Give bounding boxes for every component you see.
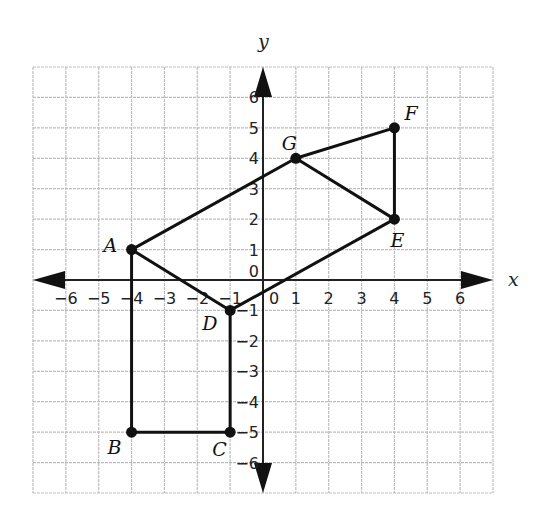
segment-GF [296, 128, 395, 158]
point-label-E: E [389, 229, 404, 251]
x-axis-left-arrow-icon [33, 271, 65, 289]
x-tick-label: 0 [269, 289, 279, 308]
segment-AG [132, 158, 296, 249]
x-axis-label: x [508, 268, 519, 290]
y-tick-label: −4 [235, 393, 259, 412]
point-C [225, 427, 236, 438]
point-E [389, 214, 400, 225]
y-tick-label: 1 [249, 241, 259, 260]
point-label-D: D [201, 312, 217, 334]
x-tick-label: 3 [356, 289, 366, 308]
point-label-A: A [102, 234, 118, 256]
point-G [290, 153, 301, 164]
point-B [126, 427, 137, 438]
point-label-F: F [403, 102, 418, 124]
y-tick-label: −6 [235, 454, 259, 473]
y-axis-label: y [257, 30, 269, 52]
x-tick-label: −5 [87, 289, 111, 308]
point-label-B: B [107, 436, 122, 458]
axes [33, 67, 493, 493]
x-tick-label: 2 [324, 289, 334, 308]
y-tick-label: 0 [249, 262, 259, 281]
y-tick-label: −5 [235, 423, 259, 442]
x-tick-label: 4 [389, 289, 399, 308]
x-tick-label: 5 [422, 289, 432, 308]
x-tick-label: −6 [54, 289, 78, 308]
y-tick-label: 6 [249, 88, 259, 107]
y-tick-label: 4 [249, 149, 259, 168]
point-label-C: C [212, 438, 227, 460]
y-tick-label: 2 [249, 210, 259, 229]
point-D [225, 305, 236, 316]
point-A [126, 244, 137, 255]
x-tick-label: 6 [455, 289, 465, 308]
x-tick-label: −3 [153, 289, 177, 308]
y-tick-label: 5 [249, 119, 259, 138]
y-tick-label: −3 [235, 362, 259, 381]
x-axis-right-arrow-icon [461, 271, 493, 289]
coordinate-plane: −6−5−4−3−2−1123456−6−5−4−3−2−101234560 A… [0, 0, 541, 513]
point-F [389, 122, 400, 133]
y-tick-label: −2 [235, 332, 259, 351]
x-tick-label: 1 [291, 289, 301, 308]
point-label-G: G [282, 132, 297, 154]
